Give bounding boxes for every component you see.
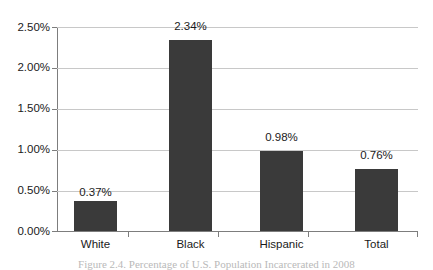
y-axis-label-200: 2.00%	[2, 62, 50, 74]
y-axis-label-100: 1.00%	[2, 144, 50, 156]
gridline-200	[57, 68, 418, 69]
x-axis-label-black: Black	[149, 238, 232, 250]
x-axis-label-white: White	[54, 238, 137, 250]
bar-black	[169, 40, 212, 231]
bar-value-black: 2.34%	[149, 21, 232, 33]
y-axis-label-150: 1.50%	[2, 103, 50, 115]
bar-white	[74, 201, 117, 231]
bar-total	[355, 169, 398, 231]
bar-value-hispanic: 0.98%	[240, 132, 323, 144]
y-axis-label-050: 0.50%	[2, 185, 50, 197]
plot-area	[57, 27, 418, 231]
x-axis-label-hispanic: Hispanic	[240, 238, 323, 250]
x-tick-separator-1	[128, 232, 129, 237]
gridline-baseline-000	[57, 231, 418, 232]
y-axis-labels: 2.50% 2.00% 1.50% 1.00% 0.50% 0.00%	[0, 0, 50, 265]
x-axis-label-total: Total	[335, 238, 418, 250]
bar-value-white: 0.37%	[54, 187, 137, 199]
x-tick-separator-3	[308, 232, 309, 237]
x-tick-separator-2	[218, 232, 219, 237]
bar-value-total: 0.76%	[335, 150, 418, 162]
x-tick-separator-4	[417, 232, 418, 237]
gridline-250	[57, 27, 418, 28]
y-axis-label-250: 2.50%	[2, 22, 50, 34]
y-axis-label-000: 0.00%	[2, 226, 50, 238]
bar-hispanic	[260, 151, 303, 231]
gridline-150	[57, 109, 418, 110]
figure-caption: Figure 2.4. Percentage of U.S. Populatio…	[0, 258, 433, 270]
